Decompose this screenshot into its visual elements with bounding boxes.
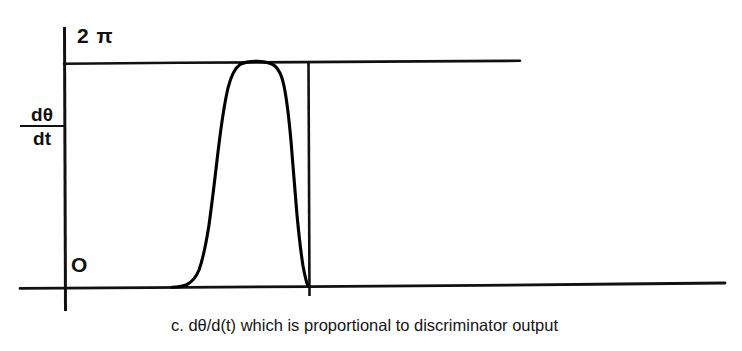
plot-canvas <box>0 0 742 351</box>
x-axis-baseline <box>20 283 725 288</box>
figure-container: 2 π O dθ dt c. dθ/d(t) which is proporti… <box>0 0 742 351</box>
y-axis-title-numerator: dθ <box>20 105 64 127</box>
y-axis-top-tick-label: 2 π <box>77 25 114 46</box>
dtheta-dt-pulse-curve <box>172 61 308 287</box>
y-axis-title-denominator: dt <box>20 127 64 148</box>
two-pi-reference-line <box>64 61 520 64</box>
y-axis-title: dθ dt <box>20 105 64 148</box>
y-axis-line <box>65 27 66 311</box>
origin-label: O <box>71 254 87 275</box>
figure-caption: c. dθ/d(t) which is proportional to disc… <box>171 317 558 334</box>
pulse-end-marker-line <box>309 62 310 296</box>
